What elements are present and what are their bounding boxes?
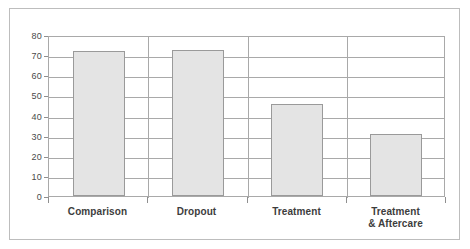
y-axis-tick-label: 10	[32, 173, 42, 182]
x-axis-tick-mark	[346, 197, 347, 203]
bar	[370, 134, 422, 196]
y-axis-tick-label: 50	[32, 92, 42, 101]
y-axis-tick-label: 30	[32, 133, 42, 142]
y-axis-tick-labels: 01020304050607080	[18, 0, 42, 249]
x-axis-tick-mark	[147, 197, 148, 203]
bar	[172, 50, 224, 196]
x-axis-tick-mark	[247, 197, 248, 203]
bar-chart-figure: 01020304050607080 ComparisonDropoutTreat…	[0, 0, 470, 249]
category-separator	[248, 37, 249, 198]
bar	[271, 104, 323, 196]
x-axis-category-label: Comparison	[48, 206, 147, 218]
x-axis-category-label: Treatment & Aftercare	[346, 206, 445, 230]
x-axis-category-label: Dropout	[147, 206, 246, 218]
bar	[73, 51, 125, 196]
y-axis-tick-label: 80	[32, 32, 42, 41]
y-axis-tick-label: 70	[32, 52, 42, 61]
y-axis-tick-label: 20	[32, 153, 42, 162]
plot-area	[48, 36, 445, 197]
y-axis-tick-label: 60	[32, 72, 42, 81]
x-axis-tick-mark	[445, 197, 446, 203]
x-axis-category-label: Treatment	[247, 206, 346, 218]
y-axis-tick-label: 40	[32, 113, 42, 122]
x-axis-tick-mark	[48, 197, 49, 203]
category-separator	[148, 37, 149, 198]
y-axis-tick-label: 0	[37, 193, 42, 202]
category-separator	[347, 37, 348, 198]
